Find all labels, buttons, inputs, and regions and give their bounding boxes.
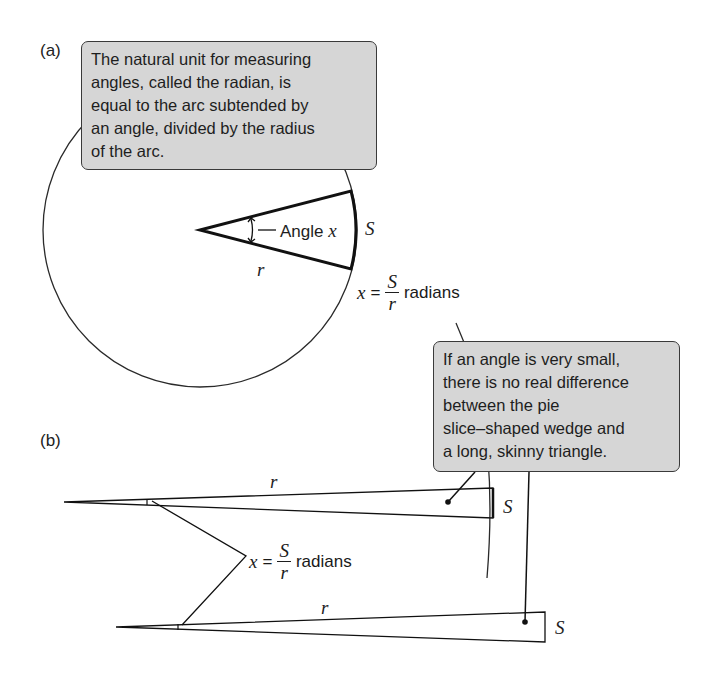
callout-b: If an angle is very small, there is no r… (433, 341, 680, 472)
fraction: S r (385, 272, 399, 313)
panel-b-label: (b) (40, 431, 61, 451)
wedge-radius-label: r (270, 471, 277, 493)
thin-wedge (64, 488, 493, 518)
radian-equation-b: x = S r radians (249, 541, 352, 582)
callout-a: The natural unit for measuring angles, c… (81, 41, 377, 170)
angle-arrow-icon (248, 218, 276, 242)
triangle-side-label: S (555, 617, 565, 639)
wedge-arc-label: S (503, 496, 513, 518)
angle-label: Angle x (280, 220, 337, 242)
equation-leader-b (152, 501, 246, 625)
triangle-radius-label: r (321, 597, 328, 619)
fraction: S r (277, 541, 291, 582)
radius-label-r: r (257, 259, 264, 281)
panel-a-label: (a) (40, 41, 61, 61)
radian-equation-a: x = S r radians (357, 272, 460, 313)
skinny-triangle (116, 612, 545, 642)
arc-label-s: S (365, 218, 375, 240)
